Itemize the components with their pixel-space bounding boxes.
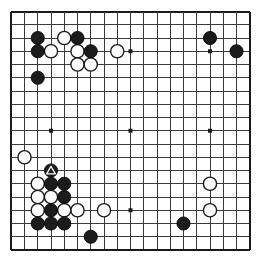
black-stone[interactable] (44, 177, 57, 190)
go-board-canvas[interactable] (0, 0, 257, 276)
black-stone[interactable] (31, 217, 44, 230)
white-stone[interactable] (71, 58, 84, 71)
white-stone[interactable] (71, 204, 84, 217)
black-stone[interactable] (84, 45, 97, 58)
black-stone[interactable] (58, 217, 71, 230)
star-point (208, 49, 212, 53)
white-stone[interactable] (44, 190, 57, 203)
white-stone[interactable] (203, 204, 216, 217)
white-stone[interactable] (31, 177, 44, 190)
black-stone[interactable] (230, 45, 243, 58)
white-stone[interactable] (31, 190, 44, 203)
white-stone[interactable] (203, 177, 216, 190)
white-stone[interactable] (44, 45, 57, 58)
white-stone[interactable] (18, 151, 31, 164)
star-point (129, 129, 133, 133)
white-stone[interactable] (58, 31, 71, 44)
go-board-diagram: Go board diagram (0, 0, 257, 276)
white-stone[interactable] (97, 204, 110, 217)
star-point (129, 208, 133, 212)
black-stone[interactable] (58, 177, 71, 190)
white-stone[interactable] (58, 204, 71, 217)
white-stone[interactable] (71, 45, 84, 58)
black-stone[interactable] (177, 217, 190, 230)
black-stone[interactable] (44, 217, 57, 230)
white-stone[interactable] (31, 204, 44, 217)
black-stone[interactable] (31, 31, 44, 44)
star-point (49, 129, 53, 133)
black-stone[interactable] (31, 45, 44, 58)
black-stone[interactable] (203, 31, 216, 44)
black-stone[interactable] (44, 204, 57, 217)
star-point (208, 129, 212, 133)
white-stone[interactable] (111, 45, 124, 58)
star-point (129, 49, 133, 53)
black-stone[interactable] (31, 71, 44, 84)
white-stone[interactable] (84, 58, 97, 71)
black-stone[interactable] (84, 230, 97, 243)
black-stone[interactable] (71, 31, 84, 44)
black-stone[interactable] (58, 190, 71, 203)
